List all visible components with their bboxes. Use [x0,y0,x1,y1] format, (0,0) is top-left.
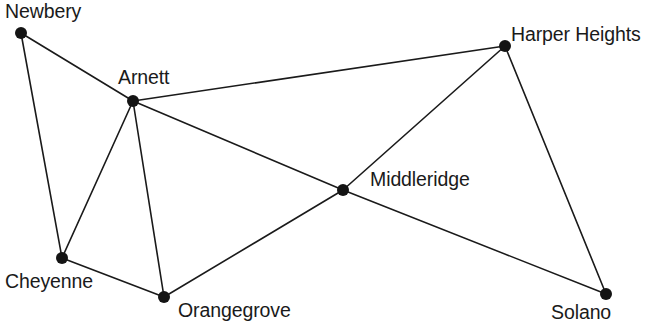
graph-edge [133,101,343,190]
graph-edge [21,33,62,258]
graph-node-cheyenne[interactable] [56,252,68,264]
graph-edge [62,101,133,258]
node-label-middleridge: Middleridge [370,170,470,190]
node-label-arnett: Arnett [118,68,169,88]
node-label-cheyenne: Cheyenne [5,272,93,292]
graph-edge [343,190,606,294]
graph-node-middleridge[interactable] [337,184,349,196]
node-label-newbery: Newbery [5,2,81,22]
graph-node-newbery[interactable] [15,27,27,39]
network-graph-canvas: NewberyArnettHarper HeightsMiddleridgeCh… [0,0,649,330]
graph-node-harper_heights[interactable] [499,40,511,52]
node-label-orangegrove: Orangegrove [178,301,291,321]
edges-group [21,33,606,297]
graph-edge [164,190,343,297]
graph-node-orangegrove[interactable] [158,291,170,303]
graph-edge [133,46,505,101]
node-label-harper_heights: Harper Heights [511,25,641,45]
node-label-solano: Solano [551,303,611,323]
graph-edge [21,33,133,101]
network-graph-svg [0,0,649,330]
graph-edge [505,46,606,294]
graph-node-solano[interactable] [600,288,612,300]
graph-edge [133,101,164,297]
graph-node-arnett[interactable] [127,95,139,107]
